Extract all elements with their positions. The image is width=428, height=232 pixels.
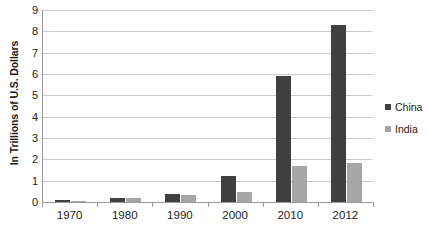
y-tick-label-1: 1	[18, 175, 38, 186]
legend-entry-india[interactable]: India	[385, 121, 428, 137]
chart-legend: ChinaIndia	[385, 99, 428, 143]
x-tick-label-1980: 1980	[95, 209, 155, 221]
x-tick-1	[97, 202, 98, 207]
y-tick-label-8: 8	[18, 26, 38, 37]
y-axis-tick-labels: 0123456789	[14, 0, 38, 232]
bar-india-2012	[347, 163, 362, 202]
bar-group-2010	[264, 10, 319, 202]
bar-china-2012	[331, 25, 346, 202]
bar-china-1990	[165, 194, 180, 202]
x-tick-5	[318, 202, 319, 207]
bar-india-2000	[237, 192, 252, 202]
bar-group-1990	[153, 10, 208, 202]
x-tick-label-1970: 1970	[40, 209, 100, 221]
x-tick-3	[208, 202, 209, 207]
bar-group-1970	[43, 10, 98, 202]
x-tick-2	[152, 202, 153, 207]
bar-group-1980	[98, 10, 153, 202]
x-tick-6	[373, 202, 374, 207]
legend-label-india: India	[395, 123, 418, 135]
x-tick-label-1990: 1990	[150, 209, 210, 221]
y-tick-label-7: 7	[18, 47, 38, 58]
bar-group-2012	[319, 10, 374, 202]
x-tick-4	[263, 202, 264, 207]
legend-label-china: China	[395, 101, 422, 113]
y-tick-label-0: 0	[18, 197, 38, 208]
x-tick-label-2010: 2010	[260, 209, 320, 221]
x-tick-label-2000: 2000	[205, 209, 265, 221]
bar-china-2000	[221, 176, 236, 202]
y-tick-label-6: 6	[18, 69, 38, 80]
legend-square-icon-china	[385, 104, 391, 110]
y-tick-label-4: 4	[18, 111, 38, 122]
plot-area	[42, 10, 373, 202]
x-tick-0	[42, 202, 43, 207]
bar-india-2010	[292, 166, 307, 202]
y-tick-label-9: 9	[18, 5, 38, 16]
x-tick-label-2012: 2012	[315, 209, 375, 221]
bar-china-2010	[276, 76, 291, 202]
bar-group-2000	[209, 10, 264, 202]
bar-chart: In Trillions of U.S. Dollars 0123456789 …	[0, 0, 428, 232]
bar-india-1990	[181, 195, 196, 202]
y-tick-label-5: 5	[18, 90, 38, 101]
legend-entry-china[interactable]: China	[385, 99, 428, 115]
bars-layer	[43, 10, 373, 202]
y-tick-label-2: 2	[18, 154, 38, 165]
y-tick-label-3: 3	[18, 133, 38, 144]
legend-square-icon-india	[385, 126, 391, 132]
